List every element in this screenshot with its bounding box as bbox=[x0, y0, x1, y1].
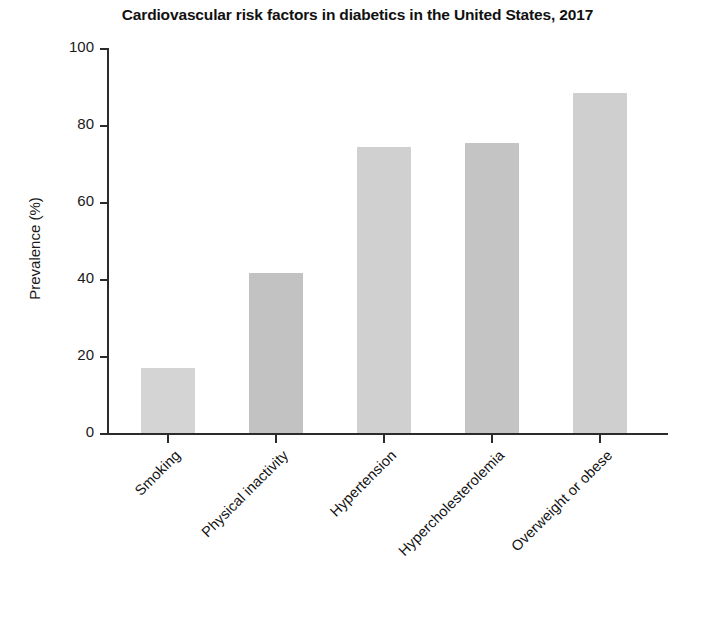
x-label-hypercholesterolemia: Hypercholesterolemia bbox=[395, 447, 507, 559]
y-axis-title: Prevalence (%) bbox=[26, 69, 43, 429]
x-label-physical-inactivity: Physical inactivity bbox=[198, 447, 291, 540]
y-tick-80: 80 bbox=[100, 125, 108, 127]
x-tick-0 bbox=[167, 434, 169, 443]
y-tick-100: 100 bbox=[100, 48, 108, 50]
bar-overweight-or-obese bbox=[573, 93, 627, 433]
x-axis-line bbox=[107, 433, 668, 435]
y-tick-label-100: 100 bbox=[69, 38, 94, 55]
y-tick-label-80: 80 bbox=[77, 115, 94, 132]
y-tick-20: 20 bbox=[100, 356, 108, 358]
x-tick-4 bbox=[599, 434, 601, 443]
y-tick-60: 60 bbox=[100, 202, 108, 204]
plot-area: 100 80 60 40 20 0 bbox=[108, 48, 668, 433]
bar-hypertension bbox=[357, 147, 411, 433]
x-label-hypertension: Hypertension bbox=[327, 447, 400, 520]
x-tick-3 bbox=[491, 434, 493, 443]
y-tick-label-60: 60 bbox=[77, 192, 94, 209]
bar-smoking bbox=[141, 368, 195, 434]
bar-physical-inactivity bbox=[249, 273, 303, 433]
x-tick-1 bbox=[275, 434, 277, 443]
x-label-smoking: Smoking bbox=[132, 447, 184, 499]
bar-chart-figure: Cardiovascular risk factors in diabetics… bbox=[0, 0, 715, 617]
y-tick-label-0: 0 bbox=[86, 423, 94, 440]
y-tick-40: 40 bbox=[100, 279, 108, 281]
bar-hypercholesterolemia bbox=[465, 143, 519, 433]
x-label-overweight-or-obese: Overweight or obese bbox=[508, 447, 615, 554]
x-tick-2 bbox=[383, 434, 385, 443]
y-tick-label-20: 20 bbox=[77, 346, 94, 363]
chart-title: Cardiovascular risk factors in diabetics… bbox=[0, 6, 715, 24]
y-tick-label-40: 40 bbox=[77, 269, 94, 286]
y-axis-line bbox=[107, 48, 109, 434]
y-tick-0: 0 bbox=[100, 433, 108, 435]
